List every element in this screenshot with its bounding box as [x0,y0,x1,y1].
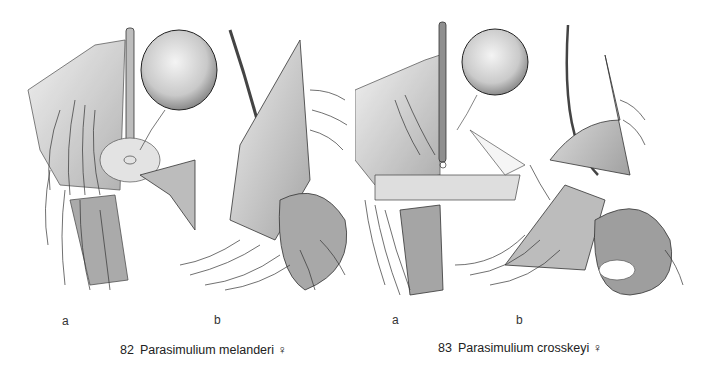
figure-83-caption: 83Parasimulium crosskeyi ♀ [438,341,602,355]
illustration-plate: a b a b 82Parasimulium melanderi ♀ 83Par… [0,0,710,377]
figure-82-species: Parasimulium melanderi [140,343,274,357]
figure-83-drawing [355,0,710,300]
figure-82-ventral-and-lateral-drawing [0,0,355,300]
female-symbol-icon: ♀ [593,341,602,355]
figure-82-drawing [0,0,355,300]
figure-83-panel-a-label: a [392,313,399,327]
figure-82-panel-b-label: b [214,313,221,327]
figure-82-caption: 82Parasimulium melanderi ♀ [120,343,287,357]
figure-83-ventral-and-lateral-drawing [355,0,710,300]
figure-83-species: Parasimulium crosskeyi [458,341,589,355]
figure-83-number: 83 [438,341,452,355]
female-symbol-icon: ♀ [277,343,286,357]
figure-82-number: 82 [120,343,134,357]
figure-83-panel-b-label: b [516,313,523,327]
figure-82-panel-a-label: a [62,314,69,328]
